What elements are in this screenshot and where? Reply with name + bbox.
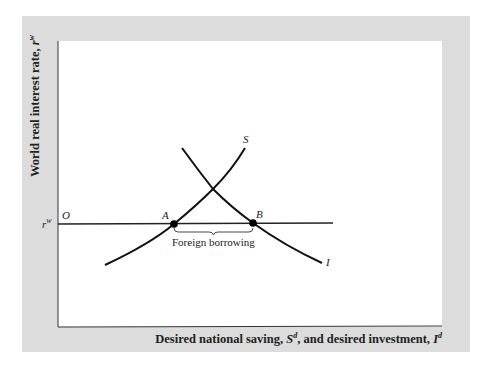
- y-axis-label-sup: w: [27, 35, 36, 40]
- world-rate-line: [58, 223, 333, 224]
- origin-label: O: [62, 209, 70, 221]
- x-axis-label: Desired national saving, Sd, and desired…: [155, 331, 442, 347]
- point-a-marker: [170, 220, 178, 228]
- saving-curve-label: S: [243, 133, 249, 145]
- x-axis-label-sup2: d: [438, 331, 442, 340]
- y-axis-label-var: r: [28, 40, 42, 45]
- foreign-borrowing-brace: [174, 228, 253, 235]
- y-axis-label: World real interest rate, rw: [27, 35, 43, 177]
- y-axis-label-text: World real interest rate,: [28, 45, 42, 177]
- rw-sup: w: [46, 216, 51, 225]
- x-axis-label-part1: Desired national saving,: [155, 332, 286, 346]
- diagram-canvas: [0, 0, 495, 366]
- point-b-label: B: [256, 208, 263, 220]
- investment-curve-label: I: [326, 256, 330, 268]
- x-axis-label-part2: , and desired investment,: [297, 332, 433, 346]
- foreign-borrowing-label: Foreign borrowing: [172, 236, 255, 248]
- point-a-label: A: [162, 209, 169, 221]
- x-axis: [58, 326, 442, 327]
- point-b-marker: [249, 219, 257, 227]
- world-rate-tick-label: rw: [42, 216, 52, 230]
